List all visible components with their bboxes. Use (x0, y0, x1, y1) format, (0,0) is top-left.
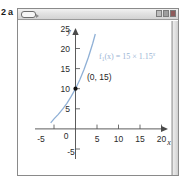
x-tick-label: -5 (37, 134, 45, 144)
y-tick-label: 15 (61, 64, 71, 74)
y-intercept-marker[interactable] (73, 87, 77, 91)
x-tick-label: 15 (135, 134, 145, 144)
function-label-body: (x) = 15 × 1.15 (104, 52, 152, 61)
exercise-label: 2a (1, 7, 13, 17)
maximize-button[interactable] (163, 10, 169, 17)
x-tick-label: 0 (64, 131, 69, 141)
window-titlebar[interactable] (18, 9, 178, 20)
calculator-window: -5 0 5 10 15 20 5 10 15 20 25 -5 (17, 8, 179, 176)
close-button[interactable] (170, 10, 176, 17)
y-intercept-label: (0, 15) (87, 72, 112, 82)
graph-canvas[interactable]: -5 0 5 10 15 20 5 10 15 20 25 -5 (18, 21, 172, 175)
window-right-frame (172, 21, 178, 175)
function-label-exponent: x (152, 51, 156, 57)
function-label: f1(x) = 15 × 1.15x (99, 51, 156, 61)
exercise-number: 2 (1, 7, 6, 17)
x-axis-label: x (166, 138, 171, 147)
y-tick-label: 10 (61, 84, 71, 94)
x-tick-label: 20 (157, 134, 167, 144)
x-axis (35, 126, 168, 132)
minimize-button[interactable] (156, 10, 162, 17)
y-axis-label: y (66, 27, 71, 36)
y-tick-label: 20 (61, 44, 71, 54)
exercise-part: a (8, 7, 13, 17)
graph-svg: -5 0 5 10 15 20 5 10 15 20 25 -5 (18, 21, 173, 176)
page-navigator-icon[interactable] (21, 11, 36, 18)
x-axis-ticks (54, 125, 162, 129)
y-tick-label-negative: -5 (67, 147, 75, 157)
figure-root: 2a (0, 0, 186, 179)
window-controls (156, 10, 176, 17)
y-axis-ticks (76, 49, 81, 150)
x-tick-label: 5 (95, 134, 100, 144)
x-tick-label: 10 (114, 134, 124, 144)
x-tick-labels: -5 0 5 10 15 20 (37, 131, 166, 144)
